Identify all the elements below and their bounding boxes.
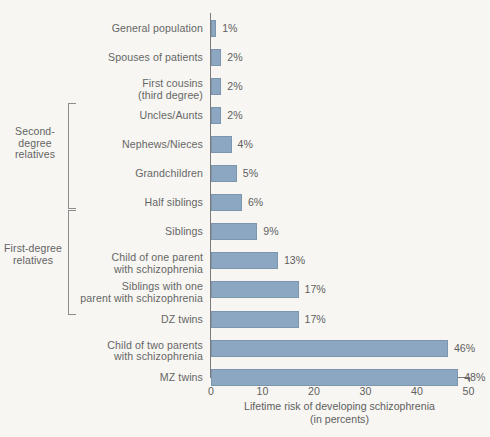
bar-value-label: 2%	[227, 80, 242, 92]
x-tick-label: 40	[411, 385, 423, 397]
bar-row: Child of two parents with schizophrenia4…	[0, 340, 490, 357]
bar-value-label: 4%	[238, 138, 253, 150]
x-tick-label: 50	[463, 385, 475, 397]
bar	[211, 78, 221, 95]
bar	[211, 223, 257, 240]
bar-category-label: Siblings with one parent with schizophre…	[23, 281, 203, 304]
bar-row: Siblings9%	[0, 223, 490, 240]
bar-category-label: First cousins (third degree)	[23, 78, 203, 101]
bar-value-label: 5%	[243, 167, 258, 179]
bar-chart: Second- degree relatives First-degree re…	[0, 0, 490, 437]
bar	[211, 49, 221, 66]
bar-category-label: General population	[23, 23, 203, 35]
bar-row: Half siblings6%	[0, 194, 490, 211]
bar-category-label: Grandchildren	[23, 168, 203, 180]
bar-row: Siblings with one parent with schizophre…	[0, 281, 490, 298]
bar	[211, 281, 299, 298]
bar	[211, 369, 458, 386]
bar-row: Grandchildren5%	[0, 165, 490, 182]
bar-value-label: 6%	[248, 196, 263, 208]
bar-row: Child of one parent with schizophrenia13…	[0, 252, 490, 269]
x-tick-label: 10	[257, 385, 269, 397]
x-tick-label: 0	[208, 385, 214, 397]
bar	[211, 194, 242, 211]
bar-category-label: MZ twins	[23, 372, 203, 384]
bar-category-label: Child of two parents with schizophrenia	[23, 340, 203, 363]
bar-value-label: 9%	[263, 225, 278, 237]
bar-row: First cousins (third degree)2%	[0, 78, 490, 95]
bar-value-label: 17%	[305, 283, 326, 295]
bar	[211, 107, 221, 124]
x-axis-title: Lifetime risk of developing schizophreni…	[210, 400, 469, 425]
bar-value-label: 17%	[305, 313, 326, 325]
bar	[211, 165, 237, 182]
bar	[211, 20, 216, 37]
x-tick-label: 20	[308, 385, 320, 397]
bar-category-label: Uncles/Aunts	[23, 110, 203, 122]
bar-value-label: 1%	[222, 22, 237, 34]
bar-row: MZ twins48%	[0, 369, 490, 386]
bar-category-label: Spouses of patients	[23, 52, 203, 64]
bar	[211, 136, 232, 153]
bar-value-label: 2%	[227, 51, 242, 63]
bar	[211, 340, 448, 357]
bar-value-label: 13%	[284, 254, 305, 266]
bar-row: Nephews/Nieces4%	[0, 136, 490, 153]
bar-row: General population1%	[0, 20, 490, 37]
bar-category-label: Half siblings	[23, 197, 203, 209]
bar-value-label: 2%	[227, 109, 242, 121]
x-tick-label: 30	[360, 385, 372, 397]
bar-row: DZ twins17%	[0, 311, 490, 328]
bar-row: Spouses of patients2%	[0, 49, 490, 66]
bar	[211, 252, 278, 269]
bar-category-label: Nephews/Nieces	[23, 139, 203, 151]
bar-row: Uncles/Aunts2%	[0, 107, 490, 124]
bar-value-label: 48%	[464, 371, 485, 383]
bar	[211, 311, 299, 328]
bar-category-label: Child of one parent with schizophrenia	[23, 252, 203, 275]
bar-category-label: DZ twins	[23, 314, 203, 326]
bar-value-label: 46%	[454, 342, 475, 354]
bar-category-label: Siblings	[23, 226, 203, 238]
